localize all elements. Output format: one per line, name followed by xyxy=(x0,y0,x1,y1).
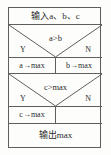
process-block-c-to-max: c→max xyxy=(9,107,56,123)
process-block-a-to-max: a→max xyxy=(9,58,56,73)
input-statement-label: 输入a、b、c xyxy=(9,8,102,24)
branch-label-no-c-gt-max: N xyxy=(85,95,91,103)
decision-block-a-gt-b: a>b Y N xyxy=(9,25,102,58)
condition-label-c-gt-max: c>max xyxy=(9,83,102,92)
branch-label-yes-c-gt-max: Y xyxy=(20,95,26,103)
output-statement-label: 输出max xyxy=(9,124,102,147)
process-block-output: 输出max xyxy=(9,124,102,147)
condition-label-a-gt-b: a>b xyxy=(9,34,102,43)
flowchart-diagram: 输入a、b、c a>b Y N a→max b→max c>max Y N c→… xyxy=(8,7,101,148)
process-block-input: 输入a、b、c xyxy=(9,8,102,25)
branch-label-yes-a-gt-b: Y xyxy=(20,46,26,54)
process-block-empty xyxy=(56,107,102,123)
branch-label-no-a-gt-b: N xyxy=(85,46,91,54)
decision-block-c-gt-max: c>max Y N xyxy=(9,74,102,107)
process-block-row-assign-ab: a→max b→max xyxy=(9,58,102,74)
process-block-b-to-max: b→max xyxy=(56,58,102,73)
process-block-row-assign-c: c→max xyxy=(9,107,102,124)
